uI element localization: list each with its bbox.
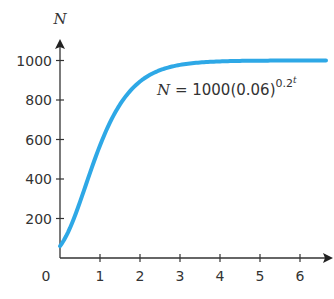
equation-annotation: N = 1000(0.06)0.2t <box>156 75 297 99</box>
x-tick-label-5: 5 <box>256 268 265 284</box>
y-tick-label-400: 400 <box>25 171 52 187</box>
x-tick-label-6: 6 <box>296 268 305 284</box>
x-tick-label-1: 1 <box>96 268 105 284</box>
y-tick-label-1000: 1000 <box>16 53 52 69</box>
origin-label: 0 <box>42 268 51 284</box>
chart: 200 400 600 800 1000 0 1 2 3 4 5 6 N N =… <box>0 0 334 299</box>
y-tick-label-600: 600 <box>25 132 52 148</box>
x-tick-label-2: 2 <box>136 268 145 284</box>
equation-lhs: N <box>156 81 171 99</box>
y-tick-label-200: 200 <box>25 211 52 227</box>
equation-body: = 1000(0.06) <box>170 81 275 99</box>
equation-exponent-base: 0.2 <box>276 77 294 90</box>
x-tick-label-3: 3 <box>176 268 185 284</box>
y-tick-label-800: 800 <box>25 92 52 108</box>
x-tick-label-4: 4 <box>216 268 225 284</box>
equation-exponent-power: t <box>293 75 297 85</box>
y-axis-title: N <box>52 10 67 28</box>
